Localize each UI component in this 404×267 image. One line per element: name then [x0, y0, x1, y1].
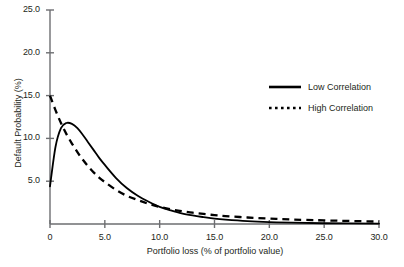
- legend-label-high-correlation: High Correlation: [308, 103, 373, 113]
- x-tick-label: 0: [30, 232, 70, 242]
- legend-label-low-correlation: Low Correlation: [308, 82, 371, 92]
- y-tick-label: 25.0: [0, 4, 40, 14]
- legend-swatch-dotted: [268, 103, 302, 113]
- plot-area: [0, 0, 404, 267]
- x-tick-label: 30.0: [359, 232, 399, 242]
- x-tick-label: 20.0: [249, 232, 289, 242]
- x-tick-label: 10.0: [140, 232, 180, 242]
- series-line-low-correlation: [50, 123, 379, 224]
- y-axis-title: Default Probability (%): [13, 53, 23, 193]
- legend-swatch-solid: [268, 82, 302, 92]
- x-axis-title: Portfolio loss (% of portfolio value): [50, 246, 380, 256]
- legend-item-low-correlation: Low Correlation: [268, 76, 400, 97]
- x-tick-label: 25.0: [304, 232, 344, 242]
- x-tick-label: 5.0: [85, 232, 125, 242]
- chart-legend: Low Correlation High Correlation: [268, 76, 400, 118]
- legend-item-high-correlation: High Correlation: [268, 97, 400, 118]
- chart-container: 5.010.015.020.025.0 05.010.015.020.025.0…: [0, 0, 404, 267]
- x-tick-label: 15.0: [195, 232, 235, 242]
